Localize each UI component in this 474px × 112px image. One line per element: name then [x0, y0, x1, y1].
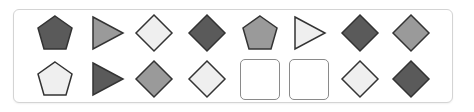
light-diamond-icon [340, 59, 380, 99]
empty-answer-slot[interactable] [240, 59, 280, 100]
dark-diamond-icon [340, 13, 380, 53]
light-diamond-icon [187, 59, 227, 99]
dark-triangle-right-icon [87, 59, 127, 99]
light-pentagon-icon [35, 59, 75, 99]
light-triangle-right-icon [289, 13, 329, 53]
dark-diamond-icon [391, 59, 431, 99]
medium-triangle-right-icon [87, 13, 127, 53]
dark-diamond-icon [187, 13, 227, 53]
pattern-puzzle-board [13, 9, 453, 103]
medium-diamond-icon [134, 59, 174, 99]
light-diamond-icon [134, 13, 174, 53]
dark-pentagon-icon [35, 13, 75, 53]
medium-pentagon-icon [240, 13, 280, 53]
medium-diamond-icon [391, 13, 431, 53]
empty-answer-slot[interactable] [289, 59, 329, 100]
